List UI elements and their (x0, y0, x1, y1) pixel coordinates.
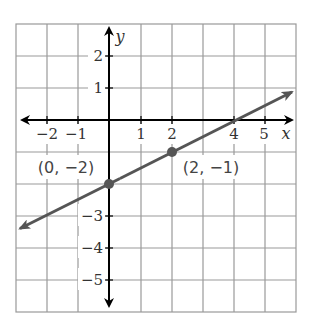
x-tick-label: −1 (65, 125, 87, 143)
coordinate-plane: −2 −1 1 2 4 5 x 2 1 −3 −4 −5 y (0, −2) (… (0, 0, 315, 329)
y-tick-label: −4 (81, 239, 103, 257)
y-tick-label: 2 (93, 47, 103, 65)
point-0-neg2 (104, 179, 114, 189)
x-axis-label: x (281, 124, 290, 143)
x-tick-label: 1 (136, 125, 146, 143)
y-axis-label: y (114, 27, 125, 46)
point-2-neg1 (167, 147, 177, 157)
y-tick-label: 1 (93, 79, 103, 97)
x-tick-label: 2 (167, 125, 177, 143)
x-tick-label: −2 (36, 125, 58, 143)
point-label: (0, −2) (38, 158, 94, 177)
x-tick-label: 5 (259, 125, 269, 143)
y-tick-label: −5 (81, 271, 103, 289)
point-label: (2, −1) (183, 158, 239, 177)
y-tick-label: −3 (81, 207, 103, 225)
x-tick-label: 4 (229, 125, 239, 143)
